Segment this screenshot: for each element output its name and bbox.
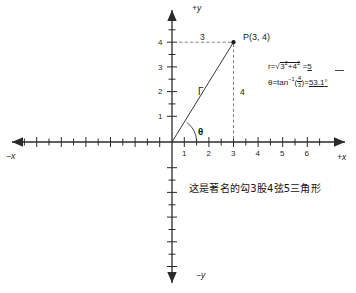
y-tick-label-2: 2 <box>158 88 162 96</box>
y-tick-label-3: 3 <box>158 64 162 72</box>
point-p-label: P(3, 4) <box>243 33 270 42</box>
x-tick-label-6: 6 <box>305 150 309 158</box>
figure-caption: 这是著名的勾3股4弦5三角形 <box>189 180 321 195</box>
r-formula-value: 5 <box>307 62 311 71</box>
y-axis-up-arrow <box>167 10 176 21</box>
opposite-side-label: 4 <box>240 88 245 97</box>
angle-arc <box>187 122 197 142</box>
radicand-b-exp: 2 <box>297 60 300 66</box>
theta-formula-unit: ° <box>324 78 327 87</box>
axis-label-y-positive: +y <box>192 4 201 13</box>
r-formula: r=√32+42 =5 <box>268 62 312 71</box>
x-tick-label-3: 3 <box>231 150 235 158</box>
x-tick-label-5: 5 <box>280 150 284 158</box>
y-tick-label-4: 4 <box>158 39 162 47</box>
axis-label-x-positive: +x <box>337 153 346 162</box>
y-axis-down-arrow <box>167 272 176 283</box>
hypotenuse-label: Γ <box>198 87 204 97</box>
y-tick-label-1: 1 <box>158 113 162 121</box>
figure-canvas: +y +x −x −y 1 2 3 4 5 6 1 2 3 4 3 4 Γ θ … <box>0 0 356 293</box>
x-tick-label-2: 2 <box>207 150 211 158</box>
adjacent-side-label: 3 <box>200 33 205 42</box>
coordinate-plot <box>0 0 356 293</box>
x-axis-right-arrow <box>334 137 345 146</box>
x-tick-label-1: 1 <box>182 150 186 158</box>
theta-formula-lhs: θ=tan <box>268 78 288 87</box>
axis-label-y-negative: −y <box>196 271 205 280</box>
x-tick-label-4: 4 <box>256 150 260 158</box>
radicand: 32+42 <box>280 62 301 71</box>
theta-formula: θ=tan−1(43)=53.1° <box>268 75 328 88</box>
theta-formula-value: 53.1 <box>309 78 325 87</box>
point-p-marker <box>231 40 235 44</box>
angle-theta-label: θ <box>198 127 203 137</box>
axis-label-x-negative: −x <box>6 152 15 161</box>
x-axis-left-arrow <box>12 137 23 146</box>
